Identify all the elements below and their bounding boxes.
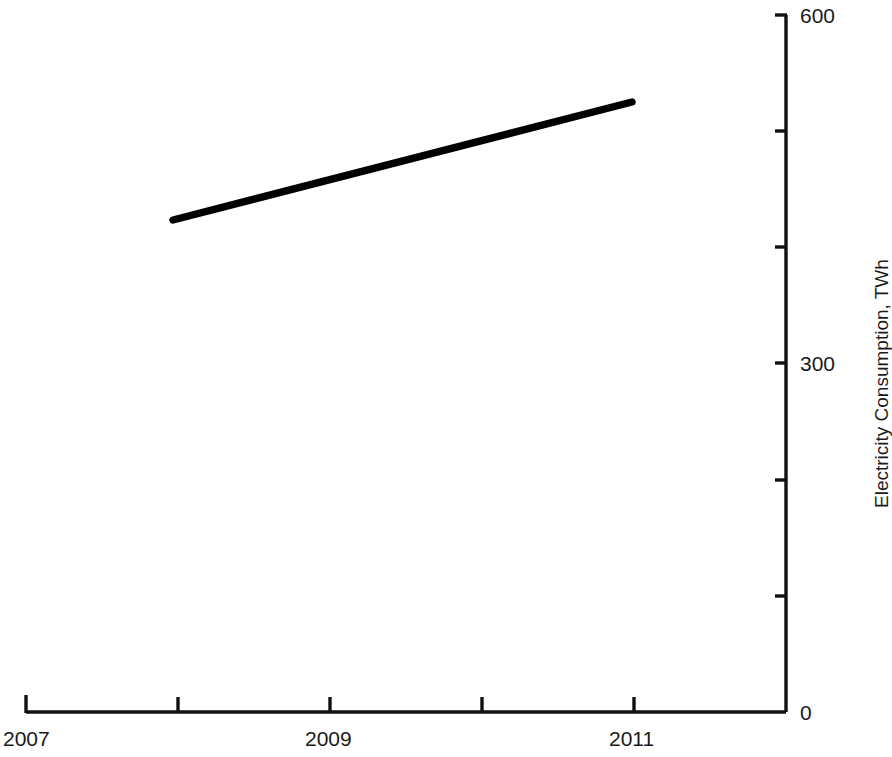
y-axis-title: Electricity Consumption, TWh bbox=[872, 259, 891, 508]
data-series-line bbox=[173, 102, 632, 220]
x-axis-label-2007: 2007 bbox=[3, 728, 50, 749]
y-axis-label-300: 300 bbox=[800, 353, 835, 374]
y-axis-label-0: 0 bbox=[800, 702, 812, 723]
x-axis-label-2011: 2011 bbox=[609, 728, 654, 749]
x-axis-label-2009: 2009 bbox=[305, 728, 352, 749]
y-axis-label-600: 600 bbox=[800, 5, 835, 26]
